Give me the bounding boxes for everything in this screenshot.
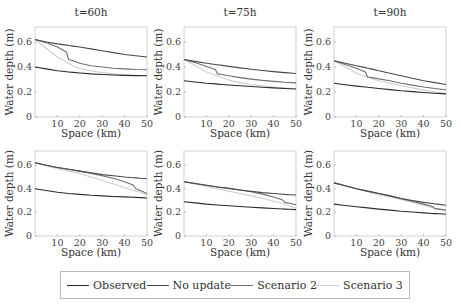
subplot-5: 102030405000.20.40.6Space (km)Water dept… (152, 150, 302, 258)
y-tick-label: 0.6 (17, 159, 32, 170)
y-tick-label: 0.2 (166, 86, 181, 97)
y-axis-label: Water depth (m) (152, 28, 164, 115)
y-tick-label: 0.4 (316, 183, 331, 194)
subplot-3: 102030405000.20.40.6Space (km)Water dept… (302, 6, 452, 139)
y-tick-label: 0.4 (316, 61, 331, 72)
legend-item-observed: Observed (67, 279, 146, 292)
subplot-4: 102030405000.20.40.6Space (km)Water dept… (3, 150, 153, 258)
x-axis-label: Space (km) (360, 246, 420, 258)
y-axis-label: Water depth (m) (302, 150, 314, 237)
subplot-2: 102030405000.20.40.6Space (km)Water dept… (152, 6, 302, 139)
y-tick-label: 0.6 (316, 36, 331, 47)
x-axis-label: Space (km) (61, 246, 121, 258)
x-tick-label: 50 (290, 118, 302, 129)
y-tick-label: 0.2 (316, 86, 331, 97)
y-tick-label: 0 (325, 230, 331, 241)
x-tick-label: 50 (141, 118, 153, 129)
x-tick-label: 50 (440, 237, 452, 248)
x-tick-label: 50 (290, 237, 302, 248)
y-tick-label: 0 (325, 111, 331, 122)
y-tick-label: 0.4 (166, 183, 181, 194)
legend-label: Observed (93, 279, 146, 292)
x-axis-label: Space (km) (61, 127, 121, 139)
x-axis-label: Space (km) (210, 127, 270, 139)
y-tick-label: 0.4 (17, 61, 32, 72)
legend: Observed No update Scenario 2 Scenario 3 (60, 271, 410, 299)
legend-label: No update (173, 279, 231, 292)
subplot-1: 102030405000.20.40.6Space (km)Water dept… (3, 6, 153, 139)
y-axis-label: Water depth (m) (3, 28, 15, 115)
subplot-6: 102030405000.20.40.6Space (km)Water dept… (302, 150, 452, 258)
axes-frame (334, 27, 446, 117)
y-axis-label: Water depth (m) (152, 150, 164, 237)
y-tick-label: 0 (175, 230, 181, 241)
y-tick-label: 0.6 (166, 36, 181, 47)
legend-swatch-observed (67, 285, 89, 286)
y-tick-label: 0 (175, 111, 181, 122)
y-tick-label: 0.4 (166, 61, 181, 72)
axes-frame (334, 151, 446, 236)
axes-frame (35, 151, 147, 236)
legend-item-scenario-2: Scenario 2 (231, 279, 317, 292)
y-tick-label: 0.6 (316, 159, 331, 170)
x-tick-label: 50 (141, 237, 153, 248)
x-axis-label: Space (km) (360, 127, 420, 139)
y-tick-label: 0.2 (316, 206, 331, 217)
y-axis-label: Water depth (m) (3, 150, 15, 237)
x-axis-label: Space (km) (210, 246, 270, 258)
y-tick-label: 0 (26, 111, 32, 122)
legend-item-no-update: No update (147, 279, 231, 292)
y-tick-label: 0.6 (17, 36, 32, 47)
y-tick-label: 0.2 (166, 206, 181, 217)
subplot-title: t=75h (223, 6, 256, 18)
y-tick-label: 0.6 (166, 159, 181, 170)
y-axis-label: Water depth (m) (302, 28, 314, 115)
y-tick-label: 0.4 (17, 183, 32, 194)
legend-label: Scenario 2 (257, 279, 317, 292)
y-tick-label: 0.2 (17, 206, 32, 217)
legend-swatch-scenario-2 (231, 285, 253, 286)
x-tick-label: 50 (440, 118, 452, 129)
y-tick-label: 0.2 (17, 86, 32, 97)
subplot-title: t=90h (373, 6, 406, 18)
y-tick-label: 0 (26, 230, 32, 241)
subplot-title: t=60h (74, 6, 107, 18)
axes-frame (35, 27, 147, 117)
legend-item-scenario-3: Scenario 3 (317, 279, 403, 292)
legend-swatch-scenario-3 (317, 285, 339, 286)
figure-canvas: 102030405000.20.40.6Space (km)Water dept… (0, 0, 461, 307)
legend-label: Scenario 3 (343, 279, 403, 292)
legend-swatch-no-update (147, 285, 169, 286)
